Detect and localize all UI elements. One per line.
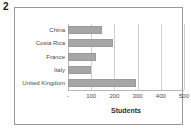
- bar[interactable]: [68, 66, 91, 74]
- bar[interactable]: [68, 79, 136, 87]
- category-label: Italy: [54, 64, 65, 77]
- bar-row: China: [68, 24, 184, 37]
- x-tick-label: 100: [86, 92, 96, 100]
- bar-row: Costa Rica: [68, 37, 184, 50]
- x-axis-line: [68, 90, 184, 91]
- x-tick-label: 500: [179, 92, 189, 100]
- figure-number: 2: [3, 2, 9, 12]
- x-tick-label: 200: [109, 92, 119, 100]
- category-label: Costa Rica: [36, 37, 65, 50]
- bar-row: Italy: [68, 64, 184, 77]
- bar[interactable]: [68, 26, 102, 34]
- x-axis-title: Students: [68, 107, 184, 114]
- x-tick-label: 400: [156, 92, 166, 100]
- x-tick-label: -: [67, 92, 69, 100]
- bar[interactable]: [68, 53, 96, 61]
- bar-row: France: [68, 51, 184, 64]
- x-tick-label: 300: [133, 92, 143, 100]
- chart-frame: ChinaCosta RicaFranceItalyUnited Kingdom…: [14, 7, 183, 125]
- category-label: France: [46, 51, 65, 64]
- gridline: [184, 24, 185, 90]
- plot-area: ChinaCosta RicaFranceItalyUnited Kingdom: [68, 24, 184, 90]
- category-label: China: [49, 24, 65, 37]
- category-label: United Kingdom: [22, 77, 65, 90]
- bar[interactable]: [68, 39, 113, 47]
- figure-container: 2 ChinaCosta RicaFranceItalyUnited Kingd…: [0, 0, 191, 134]
- bar-row: United Kingdom: [68, 77, 184, 90]
